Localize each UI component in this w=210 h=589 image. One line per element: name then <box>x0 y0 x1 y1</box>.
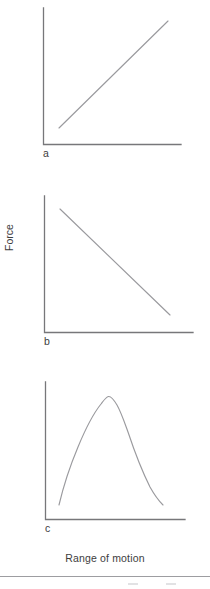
panel-c <box>46 382 186 520</box>
panel-label-a: a <box>43 148 49 159</box>
panel-label-c: c <box>45 523 50 534</box>
y-axis-title: Force <box>3 237 15 251</box>
x-axis-title: Range of motion <box>0 552 210 564</box>
figure-canvas <box>0 0 210 589</box>
panel-b-descending-curve <box>60 209 170 315</box>
panel-b <box>45 196 194 333</box>
panel-label-b: b <box>44 336 50 347</box>
footer-artifact-right <box>166 583 176 585</box>
footer-divider <box>0 576 210 577</box>
panel-a-ascending-curve <box>59 21 168 128</box>
footer-artifact-left <box>128 583 138 585</box>
panel-b-axes <box>45 196 194 333</box>
force-range-of-motion-figure: a b c Force Range of motion <box>0 0 210 589</box>
panel-c-bell-curve <box>59 396 163 505</box>
panel-a <box>44 8 182 145</box>
